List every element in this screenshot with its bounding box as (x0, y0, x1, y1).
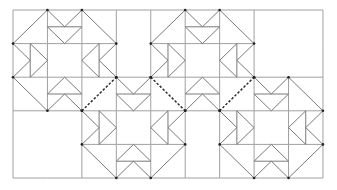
flying-geese-bottom-inner (254, 144, 288, 161)
vertex-dot (81, 143, 84, 146)
corner-triangle-seam (82, 144, 116, 178)
block-3 (82, 77, 185, 178)
block-1 (13, 10, 116, 111)
corner-triangle-seam (13, 10, 47, 44)
flying-geese-top-outer (185, 10, 219, 27)
vertex-dot (218, 9, 221, 12)
flying-geese-bottom-inner (116, 144, 150, 161)
shared-corner-seam (82, 77, 116, 111)
vertex-dot (81, 9, 84, 12)
flying-geese-left-outer (151, 44, 168, 78)
flying-geese-bottom-inner (185, 77, 219, 94)
flying-geese-right-outer (237, 44, 254, 78)
flying-geese-top-outer (254, 77, 288, 94)
vertex-dot (46, 9, 49, 12)
vertex-dot (322, 143, 325, 146)
shared-corner-seam (220, 77, 254, 111)
vertex-dot (81, 110, 84, 113)
flying-geese-bottom-outer (47, 94, 81, 111)
vertex-dot (184, 143, 187, 146)
vertex-dot (149, 76, 152, 79)
flying-geese-left-inner (237, 111, 254, 145)
flying-geese-left-inner (99, 111, 116, 145)
vertex-dot (149, 42, 152, 45)
vertex-dot (253, 177, 256, 180)
flying-geese-right-inner (82, 44, 99, 78)
block-2 (151, 10, 254, 111)
vertex-dot (218, 110, 221, 113)
corner-triangle-seam (220, 10, 254, 44)
vertex-dot (287, 177, 290, 180)
flying-geese-top-inner (116, 94, 150, 111)
flying-geese-bottom-inner (47, 77, 81, 94)
corner-triangle-seam (289, 77, 323, 111)
shared-corner-seam (82, 77, 116, 111)
flying-geese-top-inner (185, 27, 219, 44)
flying-geese-left-inner (30, 44, 47, 78)
flying-geese-top-outer (116, 77, 150, 94)
shared-corner-seam (151, 77, 185, 111)
quilt-diagram (0, 0, 337, 190)
flying-geese-right-outer (99, 44, 116, 78)
flying-geese-left-inner (168, 44, 185, 78)
corner-triangle-seam (151, 144, 185, 178)
vertex-dot (12, 76, 15, 79)
flying-geese-right-outer (306, 111, 323, 145)
shared-corner-seam (151, 77, 185, 111)
block-4 (220, 77, 323, 178)
vertex-dot (322, 110, 325, 113)
vertex-dot (115, 76, 118, 79)
flying-geese-right-inner (289, 111, 306, 145)
flying-geese-right-inner (151, 111, 168, 145)
quilt-blocks (13, 10, 323, 178)
vertex-dot (253, 76, 256, 79)
flying-geese-bottom-outer (116, 161, 150, 178)
flying-geese-bottom-outer (185, 94, 219, 111)
vertex-dot (287, 76, 290, 79)
vertex-dot (12, 42, 15, 45)
shared-corner-seams (82, 77, 254, 111)
vertex-dot (46, 110, 49, 113)
vertex-dot (115, 177, 118, 180)
corner-triangle-seam (82, 10, 116, 44)
vertex-dot (253, 42, 256, 45)
shared-corner-seam (220, 77, 254, 111)
flying-geese-bottom-outer (254, 161, 288, 178)
corner-triangle-seam (289, 144, 323, 178)
vertex-dot (149, 177, 152, 180)
corner-triangle-seam (220, 144, 254, 178)
vertex-dot (115, 42, 118, 45)
flying-geese-top-inner (254, 94, 288, 111)
flying-geese-right-inner (220, 44, 237, 78)
flying-geese-left-outer (82, 111, 99, 145)
vertex-dot (184, 9, 187, 12)
flying-geese-left-outer (220, 111, 237, 145)
corner-triangle-seam (13, 77, 47, 111)
flying-geese-right-outer (168, 111, 185, 145)
vertex-dot (184, 110, 187, 113)
flying-geese-top-inner (47, 27, 81, 44)
flying-geese-top-outer (47, 10, 81, 27)
corner-triangle-seam (151, 10, 185, 44)
flying-geese-left-outer (13, 44, 30, 78)
vertex-dot (218, 143, 221, 146)
